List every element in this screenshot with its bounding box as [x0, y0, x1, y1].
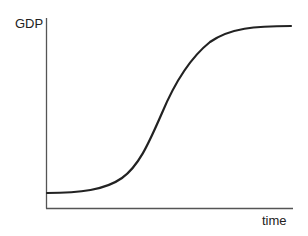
gdp-curve [47, 26, 291, 193]
chart-plot [0, 0, 308, 236]
